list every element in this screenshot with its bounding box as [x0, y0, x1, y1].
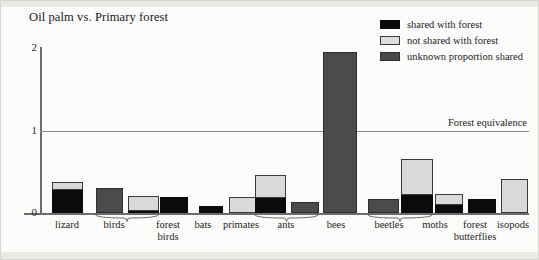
bar-lizard — [52, 182, 83, 213]
bar-beetles-2 — [401, 159, 433, 213]
x-label-isopods: isopods — [468, 219, 539, 231]
bar-series — [1, 1, 538, 213]
bar-segment-unknown-beetles-1 — [368, 199, 399, 213]
bar-segment-shared-moths — [435, 205, 463, 213]
x-label-line1: bees — [327, 219, 346, 230]
bar-segment-shared-bats — [199, 206, 223, 213]
bar-birds-1 — [96, 188, 123, 213]
bar-segment-shared-lizard — [52, 190, 83, 213]
bar-segment-unknown-bees — [323, 52, 357, 213]
bar-moths — [435, 194, 463, 213]
bar-segment-not-shared-moths — [435, 194, 463, 205]
x-label-line2: butterflies — [430, 231, 520, 243]
figure-panel: Oil palm vs. Primary forest shared with … — [0, 0, 539, 260]
bar-forest-butterflies — [468, 199, 496, 213]
bar-isopods — [501, 179, 528, 213]
bar-segment-not-shared-lizard — [52, 182, 83, 189]
bar-segment-not-shared-isopods — [501, 179, 528, 213]
bar-segment-unknown-birds-1 — [96, 188, 123, 213]
bar-segment-not-shared-primates — [229, 197, 256, 214]
bar-segment-shared-forest-birds — [160, 197, 188, 214]
bar-bats — [199, 206, 223, 213]
bar-primates — [229, 197, 256, 214]
bar-birds-2 — [128, 196, 159, 213]
x-label-line2: birds — [123, 231, 213, 243]
bar-segment-unknown-ants-2 — [291, 202, 319, 213]
bar-beetles-1 — [368, 199, 399, 213]
x-label-line1: isopods — [497, 219, 529, 230]
x-label-line1: birds — [104, 219, 125, 230]
bar-segment-shared-beetles-2 — [401, 195, 433, 213]
bar-segment-shared-forest-butterflies — [468, 199, 496, 213]
bar-forest-birds — [160, 197, 188, 214]
chart-plot-area: Oil palm vs. Primary forest shared with … — [1, 1, 538, 259]
bar-segment-shared-ants-1 — [255, 198, 286, 213]
bar-segment-not-shared-beetles-2 — [401, 159, 433, 195]
bar-ants-2 — [291, 202, 319, 213]
bar-bees — [323, 52, 357, 213]
bar-ants-1 — [255, 175, 286, 213]
bar-segment-not-shared-birds-2 — [128, 196, 159, 212]
bar-segment-not-shared-ants-1 — [255, 175, 286, 198]
